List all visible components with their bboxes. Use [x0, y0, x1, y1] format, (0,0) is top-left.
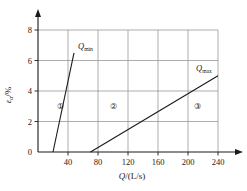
y-tick-label-6: 6: [28, 56, 32, 66]
x-axis-title-unit: /(L/s): [125, 171, 145, 181]
x-tick-label-40: 40: [64, 157, 73, 167]
annotation-region-1: ①: [57, 102, 64, 111]
x-tick-label-120: 120: [122, 157, 135, 167]
y-tick-label-0: 0: [28, 147, 32, 157]
y-axis-title-unit: /%: [3, 86, 13, 97]
x-tick-label-200: 200: [182, 157, 195, 167]
chart-container: 4080120160200240 02468 QminQmax ①②③ Q/(L…: [0, 0, 247, 191]
y-axis-title: εa/%: [3, 86, 14, 103]
x-tick-label-80: 80: [94, 157, 103, 167]
x-axis-title: Q/(L/s): [119, 171, 146, 181]
annotation-region-3: ③: [194, 102, 201, 111]
flow-rate-region-chart: 4080120160200240 02468 QminQmax ①②③ Q/(L…: [0, 0, 247, 191]
series-label-subscript-Qmin: min: [84, 46, 93, 52]
y-axis-title-text: εa/%: [3, 86, 14, 103]
x-tick-label-240: 240: [212, 157, 225, 167]
x-tick-label-160: 160: [152, 157, 165, 167]
annotation-region-2: ②: [110, 102, 117, 111]
y-tick-label-2: 2: [28, 117, 32, 127]
y-tick-label-8: 8: [28, 25, 32, 35]
series-label-subscript-Qmax: max: [202, 68, 212, 74]
